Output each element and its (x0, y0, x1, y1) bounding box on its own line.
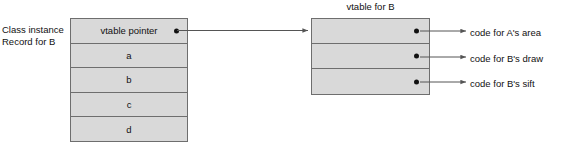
vtable-target-label-0: code for A's area (470, 27, 541, 38)
pointer-dot-icon (414, 29, 419, 34)
record-caption: Class instance Record for B (2, 24, 68, 47)
vtable-target-label-2: code for B's sift (470, 78, 535, 89)
pointer-dot-icon (414, 54, 419, 59)
record-row-label: vtable pointer (100, 25, 157, 36)
record-row-b: b (71, 68, 187, 93)
vtable-box (311, 18, 430, 95)
pointer-dot-icon (174, 28, 179, 33)
record-caption-line1: Class instance (2, 24, 68, 36)
record-caption-line2: Record for B (2, 36, 68, 48)
record-row-label: a (126, 50, 131, 61)
vtable-target-label-1: code for B's draw (470, 53, 543, 64)
vtable-slot-0 (312, 19, 429, 44)
vtable-slot-1 (312, 44, 429, 69)
vtable-title: vtable for B (311, 1, 430, 12)
record-row-a: a (71, 44, 187, 69)
class-instance-record-box: vtable pointer a b c d (70, 18, 188, 142)
vtable-diagram: Class instance Record for B vtable point… (0, 0, 561, 146)
record-row-label: d (126, 124, 131, 135)
vtable-slot-2 (312, 69, 429, 94)
record-row-c: c (71, 93, 187, 118)
pointer-dot-icon (414, 79, 419, 84)
record-row-d: d (71, 117, 187, 142)
record-row-label: b (126, 74, 131, 85)
record-row-label: c (127, 99, 132, 110)
record-row-vtable-pointer: vtable pointer (71, 19, 187, 44)
